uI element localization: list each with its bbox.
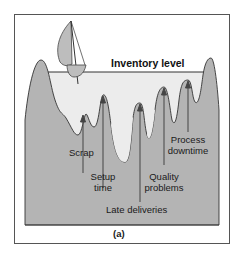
setup-time-line2: time bbox=[88, 182, 118, 193]
process-downtime-label: Process downtime bbox=[166, 134, 210, 156]
process-downtime-line2: downtime bbox=[166, 145, 210, 156]
process-downtime-line1: Process bbox=[166, 134, 210, 145]
figure-caption: (a) bbox=[113, 228, 125, 239]
scrap-label: Scrap bbox=[69, 147, 94, 158]
setup-time-line1: Setup bbox=[88, 171, 118, 182]
late-deliveries-label: Late deliveries bbox=[106, 204, 167, 215]
quality-problems-line2: problems bbox=[144, 182, 184, 193]
diagram-canvas bbox=[0, 0, 241, 264]
setup-time-label: Setup time bbox=[88, 171, 118, 193]
quality-problems-line1: Quality bbox=[144, 171, 184, 182]
quality-problems-label: Quality problems bbox=[144, 171, 184, 193]
inventory-diagram: Inventory level Scrap Setup time Late de… bbox=[0, 0, 241, 264]
inventory-level-label: Inventory level bbox=[111, 57, 185, 69]
